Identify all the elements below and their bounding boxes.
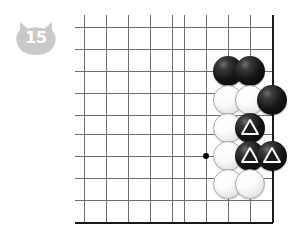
stone-white[interactable]: [235, 169, 265, 199]
diagram-root: 15: [0, 0, 306, 235]
triangle-shape: [264, 148, 280, 162]
stone-black[interactable]: [257, 85, 287, 115]
triangle-shape: [242, 148, 258, 162]
triangle-shape: [242, 120, 258, 134]
stone-layer: [0, 0, 306, 235]
stone-black[interactable]: [235, 56, 265, 86]
triangle-mark-icon: [257, 141, 287, 171]
triangle-mark-icon: [235, 113, 265, 143]
stone-black-marked[interactable]: [235, 113, 265, 143]
stone-black-marked[interactable]: [257, 141, 287, 171]
